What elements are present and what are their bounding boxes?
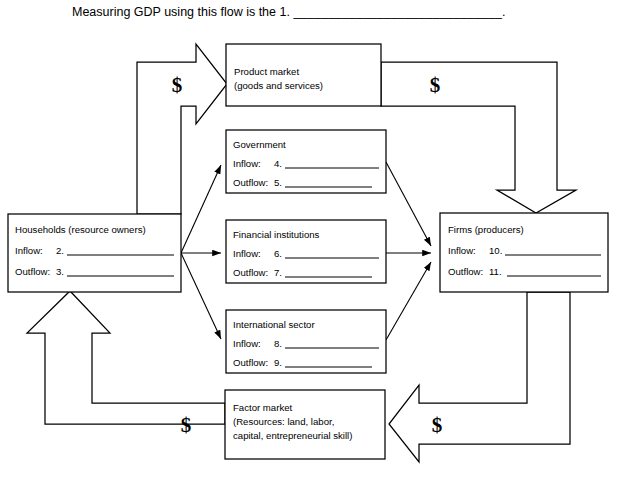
block-arrow-households-to-product-market bbox=[137, 44, 227, 214]
page-title: Measuring GDP using this flow is the 1. … bbox=[72, 5, 505, 19]
international-sector-outflow-label: Outflow: bbox=[233, 357, 268, 368]
circular-flow-diagram: Measuring GDP using this flow is the 1. … bbox=[0, 0, 618, 488]
government-outflow-label: Outflow: bbox=[233, 177, 268, 188]
factor-market-line2: (Resources: land, labor, bbox=[233, 416, 334, 427]
dollar-sign-product-market-to-firms: $ bbox=[430, 73, 441, 97]
international-sector-title: International sector bbox=[233, 319, 315, 330]
firms-inflow-number: 10. bbox=[489, 245, 502, 256]
financial-institutions-title: Financial institutions bbox=[233, 229, 320, 240]
dollar-sign-factor-market-to-households: $ bbox=[181, 413, 192, 437]
households-outflow-label: Outflow: bbox=[15, 266, 50, 277]
factor-market-title: Factor market bbox=[233, 402, 293, 413]
product-market-subtitle: (goods and services) bbox=[234, 80, 323, 91]
arrow-households-to-international-sector bbox=[181, 253, 221, 339]
government-outflow-number: 5. bbox=[274, 177, 282, 188]
international-sector-inflow-number: 8. bbox=[274, 338, 282, 349]
box-factor-market: Factor market (Resources: land, labor, c… bbox=[225, 390, 385, 459]
firms-outflow-number: 11. bbox=[489, 266, 502, 277]
arrow-government-to-firms bbox=[386, 162, 431, 246]
block-arrow-product-market-to-firms bbox=[381, 62, 576, 213]
block-arrow-firms-to-factor-market bbox=[389, 292, 570, 462]
box-government: Government Inflow: 4. Outflow: 5. bbox=[226, 130, 386, 193]
government-inflow-label: Inflow: bbox=[233, 158, 261, 169]
dollar-sign-firms-to-factor-market: $ bbox=[432, 413, 443, 437]
arrow-international-sector-to-firms bbox=[386, 262, 431, 340]
households-title: Households (resource owners) bbox=[15, 224, 146, 235]
households-inflow-number: 2. bbox=[56, 245, 64, 256]
arrow-households-to-government bbox=[181, 165, 221, 253]
financial-institutions-inflow-number: 6. bbox=[274, 248, 282, 259]
households-inflow-label: Inflow: bbox=[15, 245, 43, 256]
block-arrow-factor-market-to-households bbox=[27, 291, 225, 424]
firms-outflow-label: Outflow: bbox=[448, 266, 483, 277]
households-outflow-number: 3. bbox=[56, 266, 64, 277]
box-financial-institutions: Financial institutions Inflow: 6. Outflo… bbox=[226, 220, 386, 283]
dollar-sign-households-to-product-market: $ bbox=[172, 73, 183, 97]
box-firms: Firms (producers) Inflow: 10. Outflow: 1… bbox=[440, 213, 608, 292]
firms-title: Firms (producers) bbox=[448, 224, 524, 235]
financial-institutions-outflow-label: Outflow: bbox=[233, 267, 268, 278]
box-households: Households (resource owners) Inflow: 2. … bbox=[8, 214, 181, 292]
international-sector-outflow-number: 9. bbox=[274, 357, 282, 368]
product-market-title: Product market bbox=[234, 66, 299, 77]
financial-institutions-outflow-number: 7. bbox=[274, 267, 282, 278]
international-sector-inflow-label: Inflow: bbox=[233, 338, 261, 349]
box-product-market: Product market (goods and services) bbox=[226, 44, 381, 106]
factor-market-line3: capital, entrepreneurial skill) bbox=[233, 430, 352, 441]
firms-inflow-label: Inflow: bbox=[448, 245, 476, 256]
government-inflow-number: 4. bbox=[274, 158, 282, 169]
financial-institutions-inflow-label: Inflow: bbox=[233, 248, 261, 259]
box-international-sector: International sector Inflow: 8. Outflow:… bbox=[226, 310, 386, 373]
government-title: Government bbox=[233, 139, 286, 150]
